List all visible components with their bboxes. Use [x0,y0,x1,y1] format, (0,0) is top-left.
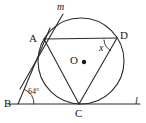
label-line-m: m [57,2,64,12]
angle-arc-at-d [104,40,111,51]
label-center-o: O [70,55,78,66]
label-point-a: A [29,33,37,44]
chord-a-d [44,38,117,39]
label-angle-b: 64° [28,88,39,96]
chord-a-c [44,39,79,104]
label-point-d: D [120,30,128,41]
label-point-c: C [75,108,82,119]
label-line-l: l [135,96,138,106]
center-point-dot [82,60,86,64]
label-angle-d: x [99,43,103,53]
circle-outline [38,18,124,104]
label-point-b: B [4,98,11,109]
chord-c-d [79,38,117,104]
geometry-figure: A B C D O m l 64° x [0,0,146,123]
